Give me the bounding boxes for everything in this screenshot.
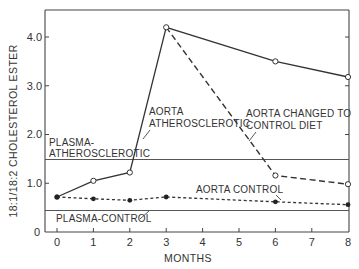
aorta-atherosclerotic-label-1: AORTA — [149, 106, 184, 117]
x-tick-0: 0 — [54, 236, 60, 248]
plasma-atherosclerotic-label-2: ATHEROSCLEROTIC — [49, 148, 150, 159]
leader-lines — [140, 130, 281, 219]
aorta-control-line — [57, 197, 348, 205]
x-tick-labels: 0 1 2 3 4 5 6 7 8 — [54, 236, 351, 248]
x-axis-title: MONTHS — [164, 252, 212, 264]
x-tick-8: 8 — [345, 236, 351, 248]
y-tick-1: 1.0 — [27, 177, 42, 189]
x-tick-7: 7 — [309, 236, 315, 248]
x-tick-6: 6 — [272, 236, 278, 248]
plasma-control-label: PLASMA-CONTROL — [56, 213, 152, 224]
x-tick-5: 5 — [236, 236, 242, 248]
y-tick-3: 3.0 — [27, 80, 42, 92]
x-tick-3: 3 — [163, 236, 169, 248]
y-tick-2: 2.0 — [27, 128, 42, 140]
y-tick-0: 0 — [34, 226, 40, 238]
plasma-atherosclerotic-label-1: PLASMA- — [49, 137, 94, 148]
x-tick-4: 4 — [200, 236, 206, 248]
y-tick-4: 4.0 — [27, 31, 42, 43]
aorta-changed-label-2: CONTROL DIET — [246, 120, 322, 131]
aorta-changed-diet-line — [166, 27, 348, 184]
y-axis-title: 18:1/18:2 CHOLESTEROL ESTER — [7, 44, 19, 217]
aorta-atherosclerotic-label-2: ATHEROSCLEROTIC — [149, 118, 250, 129]
start-marker — [54, 194, 59, 199]
annotations: PLASMA- ATHEROSCLEROTIC PLASMA-CONTROL A… — [49, 106, 351, 224]
y-tick-labels: 0 1.0 2.0 3.0 4.0 — [27, 31, 42, 238]
aorta-control-markers — [55, 195, 351, 208]
x-tick-2: 2 — [127, 236, 133, 248]
aorta-changed-label-1: AORTA CHANGED TO — [246, 108, 351, 119]
aorta-control-label: AORTA CONTROL — [196, 184, 283, 195]
x-tick-1: 1 — [90, 236, 96, 248]
cholesterol-ester-chart: 0 1.0 2.0 3.0 4.0 0 1 2 3 4 5 6 7 8 MONT… — [0, 0, 359, 269]
x-ticks — [57, 228, 312, 232]
